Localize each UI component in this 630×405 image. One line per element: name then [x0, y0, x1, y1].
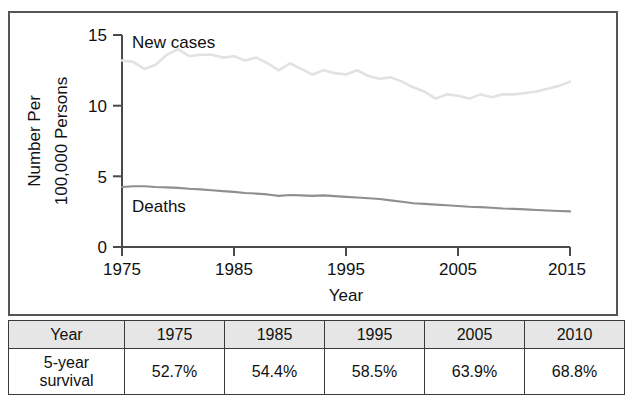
table-header-cell-2010: 2010: [525, 321, 625, 349]
x-tick-label-2015: 2015: [548, 260, 586, 279]
y-tick-label-0: 0: [98, 238, 107, 257]
x-axis-ticks: [122, 247, 570, 256]
y-tick-label-15: 15: [88, 26, 107, 45]
x-tick-label-1985: 1985: [215, 260, 253, 279]
table-header-row: Year 1975 1985 1995 2005 2010: [9, 321, 625, 349]
x-tick-label-1995: 1995: [327, 260, 365, 279]
series-label-new-cases: New cases: [132, 33, 215, 52]
table-header-cell-1975: 1975: [125, 321, 225, 349]
table-row-label: 5-year survival: [9, 349, 125, 395]
y-axis-ticks: [113, 35, 122, 247]
table-row: 5-year survival 52.7% 54.4% 58.5% 63.9% …: [9, 349, 625, 395]
table-header-cell-1995: 1995: [325, 321, 425, 349]
table-header-cell-2005: 2005: [425, 321, 525, 349]
chart-panel: 15 10 5 0 1975 1985 1995 2005 2015 Year …: [8, 11, 618, 316]
y-axis-title-line1: Number Per: [25, 95, 44, 187]
x-tick-label-1975: 1975: [103, 260, 141, 279]
table-row-label-line1: 5-year: [9, 354, 124, 372]
table-header-cell-1985: 1985: [225, 321, 325, 349]
table-cell-survival-1995: 58.5%: [325, 349, 425, 395]
y-axis-title-line2: 100,000 Persons: [52, 77, 71, 206]
table-cell-survival-1985: 54.4%: [225, 349, 325, 395]
y-tick-label-10: 10: [88, 97, 107, 116]
figure-root: 15 10 5 0 1975 1985 1995 2005 2015 Year …: [0, 0, 630, 405]
y-tick-label-5: 5: [98, 168, 107, 187]
series-line-deaths: [122, 186, 570, 211]
table-row-label-line2: survival: [9, 372, 124, 390]
five-year-survival-table: Year 1975 1985 1995 2005 2010 5-year sur…: [8, 320, 625, 395]
table-header-cell-year-label: Year: [9, 321, 125, 349]
x-tick-label-2005: 2005: [439, 260, 477, 279]
line-chart: 15 10 5 0 1975 1985 1995 2005 2015 Year …: [10, 13, 616, 314]
table-cell-survival-1975: 52.7%: [125, 349, 225, 395]
series-line-new-cases: [122, 49, 570, 98]
x-axis-title: Year: [329, 286, 364, 305]
table-cell-survival-2005: 63.9%: [425, 349, 525, 395]
table-cell-survival-2010: 68.8%: [525, 349, 625, 395]
series-label-deaths: Deaths: [132, 197, 186, 216]
